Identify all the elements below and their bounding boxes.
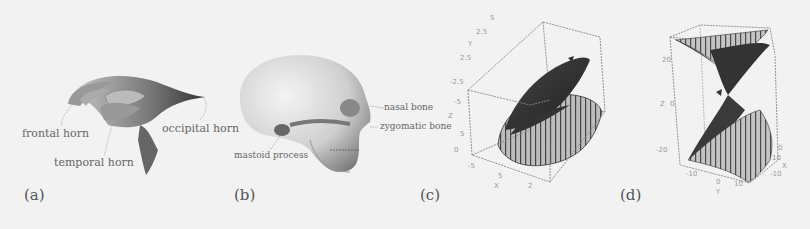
panel-c: 2.5 5 2.5 Y -2.5 -5 Z 5 0 -5 5 X 2 (c) bbox=[410, 0, 610, 229]
tick-c-0: 2.5 bbox=[476, 28, 487, 36]
axis-c-z: Z bbox=[448, 112, 453, 120]
axis-d-x: X bbox=[782, 162, 787, 170]
panel-b: nasal bone zygomatic bone mastoid proces… bbox=[210, 0, 410, 229]
tick-d-6: -10 bbox=[770, 170, 781, 178]
panel-letter-a: (a) bbox=[24, 186, 45, 204]
tick-d-7: 10 bbox=[772, 154, 781, 162]
axis-d-y: Y bbox=[716, 188, 720, 196]
panel-a: frontal horn occipital horn temporal hor… bbox=[0, 0, 210, 229]
tick-d-2: -20 bbox=[656, 146, 667, 154]
axis-c-x: X bbox=[494, 182, 499, 190]
panel-letter-b: (b) bbox=[234, 186, 255, 204]
label-mastoid-process: mastoid process bbox=[234, 150, 308, 160]
tick-d-1: 0 bbox=[670, 100, 674, 108]
tick-c-4: -5 bbox=[454, 98, 461, 106]
tick-d-8: 0 bbox=[778, 144, 782, 152]
tick-d-0: 20 bbox=[662, 56, 671, 64]
tick-c-5: 5 bbox=[460, 130, 464, 138]
label-frontal-horn: frontal horn bbox=[22, 127, 89, 140]
tick-c-9: 5 bbox=[498, 172, 502, 180]
tick-c-6: 0 bbox=[454, 146, 458, 154]
tick-c-10: 2 bbox=[528, 182, 532, 190]
panel-d: 20 Z 0 -20 -10 0 Y 10 -10 10 X 0 (d) bbox=[610, 0, 810, 229]
tick-c-3: -2.5 bbox=[450, 78, 464, 86]
panel-letter-d: (d) bbox=[620, 186, 641, 204]
label-temporal-horn: temporal horn bbox=[54, 156, 134, 169]
panel-letter-c: (c) bbox=[420, 186, 440, 204]
axis-c-y: Y bbox=[468, 40, 472, 48]
figure: frontal horn occipital horn temporal hor… bbox=[0, 0, 810, 229]
tick-d-4: 0 bbox=[716, 178, 720, 186]
tick-d-5: 10 bbox=[734, 180, 743, 188]
tick-c-8: -5 bbox=[468, 162, 475, 170]
axis-d-z: Z bbox=[660, 100, 665, 108]
tick-c-2: 2.5 bbox=[460, 54, 471, 62]
tick-c-1: 5 bbox=[490, 14, 494, 22]
tick-d-3: -10 bbox=[686, 170, 697, 178]
